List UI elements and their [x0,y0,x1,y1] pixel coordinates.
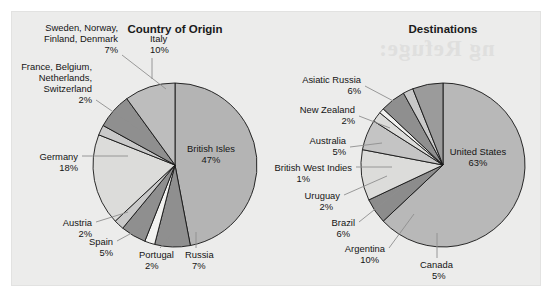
label-brazil-name: Brazil [332,217,355,228]
label-british-isles-name: British Isles [187,143,235,154]
label-united-states-value: 63% [469,157,488,168]
chart-title-country-of-origin: Country of Origin [127,23,222,35]
label-france-value: 2% [78,94,92,105]
label-asiatic-russia-value: 6% [347,85,361,96]
slice-label-brazil: Brazil 6% [332,217,355,239]
slice-label-germany: Germany 18% [39,151,78,173]
label-sweden-line2: Finland, Denmark [44,33,118,44]
label-sweden-value: 7% [104,44,118,55]
leader-asiatic-russia [365,86,399,104]
label-bwi-value: 1% [296,173,310,184]
label-russia-name: Russia [185,249,214,260]
slice-label-russia: Russia 7% [185,249,214,271]
label-italy-name: Italy [150,33,168,44]
slice-label-new-zealand: New Zealand 2% [300,104,355,126]
slice-label-argentina: Argentina 10% [345,243,386,265]
charts-svg: Country of Origin Italy 10% [0,0,556,304]
label-bwi-name: British West Indies [275,162,353,173]
label-asiatic-russia-name: Asiatic Russia [302,74,362,85]
pie-wedges-country-of-origin [93,83,257,247]
label-spain-name: Spain [89,236,113,247]
slice-label-australia: Australia 5% [310,135,347,157]
label-australia-value: 5% [332,146,346,157]
label-canada-value: 5% [432,270,446,281]
label-portugal-name: Portugal [139,249,174,260]
label-portugal-value: 2% [145,260,159,271]
label-canada-name: Canada [420,259,454,270]
label-argentina-value: 10% [360,254,379,265]
label-russia-value: 7% [192,260,206,271]
label-italy-value: 10% [150,44,169,55]
label-france-line3: Switzerland [44,83,92,94]
slice-label-spain: Spain 5% [89,236,113,258]
label-british-isles-value: 47% [202,154,221,165]
label-united-states-name: United States [450,146,507,157]
label-austria-name: Austria [63,217,93,228]
pie-wedges-destinations [361,83,525,247]
leader-sweden-group [122,55,166,89]
label-sweden-line1: Sweden, Norway, [45,22,118,33]
chart-destinations: Destinations Asiatic Russia 6% New Zeala [275,23,525,281]
label-uruguay-name: Uruguay [305,190,341,201]
label-new-zealand-value: 2% [341,115,355,126]
label-france-line2: Netherlands, [39,72,92,83]
slice-label-asiatic-russia: Asiatic Russia 6% [302,74,362,96]
label-argentina-name: Argentina [345,243,386,254]
label-australia-name: Australia [310,135,347,146]
slice-label-british-west-indies: British West Indies 1% [275,162,353,184]
slice-label-sweden-group: Sweden, Norway, Finland, Denmark 7% [44,22,118,55]
chart-country-of-origin: Country of Origin Italy 10% [21,22,257,271]
label-france-line1: France, Belgium, [21,61,92,72]
slice-label-portugal: Portugal 2% [139,249,174,271]
slice-label-canada: Canada 5% [420,259,454,281]
label-spain-value: 5% [99,247,113,258]
label-germany-name: Germany [39,151,78,162]
chart-title-destinations: Destinations [408,23,477,35]
figure-root: ng Refuge: Country of Origin Italy [0,0,556,304]
slice-label-uruguay: Uruguay 2% [305,190,341,212]
label-germany-value: 18% [59,162,78,173]
slice-label-italy: Italy 10% [150,33,169,55]
label-new-zealand-name: New Zealand [300,104,355,115]
label-uruguay-value: 2% [319,201,333,212]
slice-label-france-group: France, Belgium, Netherlands, Switzerlan… [21,61,92,105]
label-brazil-value: 6% [336,228,350,239]
